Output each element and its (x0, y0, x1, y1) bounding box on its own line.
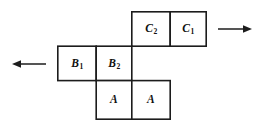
cell-a-right-label: A (147, 94, 155, 106)
arrow-left-head (12, 60, 21, 68)
cell-c2-subscript: 2 (153, 27, 157, 36)
cell-b2-label: B2 (108, 58, 120, 70)
diagram-root: C2 C1 B1 B2 A A (0, 0, 264, 134)
cell-b1-subscript: 1 (79, 62, 83, 71)
arrow-right-group (218, 25, 252, 33)
arrow-right-head (243, 25, 252, 33)
cell-c1-base: C (182, 22, 190, 34)
cell-b2-base: B (108, 57, 116, 69)
cell-b1-label: B1 (71, 58, 83, 70)
cell-a-right-base: A (147, 93, 155, 105)
cell-c2-base: C (145, 22, 153, 34)
cell-b1-base: B (71, 57, 79, 69)
cell-c2-label: C2 (145, 23, 157, 35)
cell-b2-subscript: 2 (116, 62, 120, 71)
arrow-left-group (12, 60, 46, 68)
cell-a-left-base: A (110, 93, 118, 105)
cell-c1-subscript: 1 (190, 27, 194, 36)
diagram-canvas (0, 0, 264, 134)
cell-a-left-label: A (110, 94, 118, 106)
cell-c1-label: C1 (182, 23, 194, 35)
